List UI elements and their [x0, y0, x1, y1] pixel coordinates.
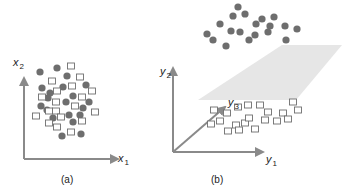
square-point [265, 109, 272, 115]
dot-point [227, 27, 234, 34]
dot-point [85, 98, 92, 105]
y2-axis-label: y2 [160, 66, 171, 80]
square-point [246, 115, 253, 121]
square-point [39, 94, 46, 100]
dot-point [53, 64, 60, 71]
square-point [89, 88, 96, 94]
square-point [295, 107, 302, 113]
square-point [54, 124, 61, 130]
square-point [217, 118, 224, 124]
x2-axis-label: x2 [13, 57, 24, 71]
square-point [79, 94, 86, 100]
dot-point [77, 130, 84, 137]
dot-point [58, 132, 65, 139]
dot-point [82, 81, 89, 88]
dot-point [236, 28, 243, 35]
dot-point [245, 36, 252, 43]
dot-point [38, 84, 45, 91]
square-point [46, 120, 53, 126]
square-point [245, 102, 252, 108]
panel-b-caption: (b) [211, 175, 223, 185]
dot-point [62, 98, 69, 105]
square-point [280, 110, 287, 116]
y3-axis-label: y3 [228, 97, 239, 111]
square-point [68, 129, 75, 135]
class-dots-a [36, 64, 92, 139]
dot-point [229, 12, 236, 19]
dot-point [258, 15, 265, 22]
dot-point [241, 10, 248, 17]
panel-a-scatter [24, 63, 118, 159]
dot-point [282, 36, 289, 43]
dot-point [63, 72, 70, 79]
dot-point [222, 42, 229, 49]
class-dots-b [203, 3, 300, 49]
dot-point [76, 111, 83, 118]
square-point [46, 108, 53, 114]
y3-axis [173, 107, 225, 152]
dot-point [281, 22, 288, 29]
square-point [72, 103, 79, 109]
square-point [49, 78, 56, 84]
x1-axis-label: x1 [118, 153, 129, 167]
dot-point [266, 22, 273, 29]
panel-b-3d-projection [173, 3, 342, 152]
square-point [69, 83, 76, 89]
dot-point [234, 3, 241, 10]
square-point [53, 99, 60, 105]
square-point [33, 113, 40, 119]
square-point [285, 116, 292, 122]
dot-point [36, 68, 43, 75]
class-squares-b [208, 99, 302, 134]
dot-point [216, 20, 223, 27]
square-point [262, 117, 269, 123]
square-point [290, 99, 297, 105]
square-point [274, 118, 281, 124]
dot-point [252, 20, 259, 27]
separating-plane [198, 45, 342, 100]
dot-point [65, 111, 72, 118]
y1-axis-label: y1 [266, 154, 277, 168]
diagram-canvas [0, 0, 352, 196]
panel-a-caption: (a) [61, 175, 73, 185]
dot-point [69, 92, 76, 99]
dot-point [69, 118, 76, 125]
dot-point [37, 102, 44, 109]
square-point [236, 127, 243, 133]
square-point [54, 88, 61, 94]
square-point [68, 63, 75, 69]
dot-point [251, 31, 258, 38]
dot-point [79, 104, 86, 111]
square-point [208, 121, 215, 127]
dot-point [270, 13, 277, 20]
square-point [53, 108, 60, 114]
square-point [211, 107, 218, 113]
square-point [79, 118, 86, 124]
dot-point [293, 25, 300, 32]
square-point [77, 74, 84, 80]
dot-point [203, 30, 210, 37]
square-point [252, 126, 259, 132]
square-point [257, 102, 264, 108]
square-point [58, 114, 65, 120]
square-point [225, 128, 232, 134]
square-point [92, 109, 99, 115]
dot-point [209, 36, 216, 43]
